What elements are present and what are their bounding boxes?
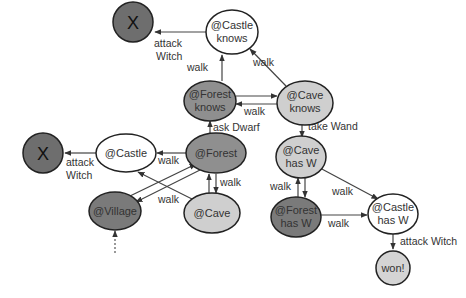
edge-label: walk — [219, 176, 242, 188]
svg-text:@Castle: @Castle — [372, 201, 414, 213]
svg-text:@Castle: @Castle — [211, 19, 253, 31]
svg-text:@Forest: @Forest — [195, 147, 237, 159]
edge-label: walk — [243, 105, 266, 117]
node-castle: @Castle — [96, 134, 156, 172]
svg-text:@Cave: @Cave — [194, 207, 231, 219]
node-forest: @Forest — [186, 133, 246, 173]
svg-text:@Forest: @Forest — [189, 88, 231, 100]
svg-text:X: X — [37, 144, 49, 164]
node-castle-knows: @Castle knows — [206, 10, 258, 54]
svg-text:won!: won! — [380, 262, 404, 274]
node-won: won! — [376, 251, 410, 285]
node-village: @Village — [89, 192, 141, 230]
edge-label: walk — [252, 56, 275, 68]
edge-label: attack — [66, 156, 95, 168]
svg-text:@Forest: @Forest — [275, 204, 317, 216]
svg-text:has W: has W — [285, 157, 317, 169]
edge-label: attack Witch — [400, 235, 457, 247]
state-diagram: attack Witch walk walk walk ask Dwarf ta… — [0, 0, 466, 298]
edge-label: Witch — [66, 169, 92, 181]
svg-text:has W: has W — [280, 217, 312, 229]
node-x-left: X — [23, 133, 63, 173]
edge-label: walk — [186, 61, 209, 73]
svg-text:knows: knows — [216, 32, 248, 44]
svg-text:@Village: @Village — [93, 205, 137, 217]
svg-text:@Cave: @Cave — [287, 89, 324, 101]
edge-label: ask Dwarf — [213, 121, 260, 133]
svg-text:@Castle: @Castle — [105, 147, 147, 159]
node-castle-has-w: @Castle has W — [368, 194, 418, 234]
node-cave: @Cave — [184, 193, 240, 233]
node-forest-knows: @Forest knows — [184, 81, 236, 121]
nodes: X @Castle knows @Forest knows @Cave know… — [23, 2, 418, 285]
svg-text:@Cave: @Cave — [283, 144, 320, 156]
svg-text:knows: knows — [194, 101, 226, 113]
edge-label: Witch — [156, 50, 182, 62]
edge-label: walk — [157, 154, 180, 166]
edge-label: walk — [157, 193, 180, 205]
edge-label: walk — [327, 217, 350, 229]
node-cave-has-w: @Cave has W — [276, 136, 326, 178]
svg-text:knows: knows — [289, 102, 321, 114]
edge-label: attack — [154, 37, 183, 49]
edge-label: walk — [331, 185, 354, 197]
node-forest-has-w: @Forest has W — [271, 197, 321, 237]
node-cave-knows: @Cave knows — [277, 81, 333, 125]
svg-text:has W: has W — [377, 214, 409, 226]
svg-text:X: X — [127, 13, 139, 33]
node-x-top: X — [113, 2, 153, 42]
edge-label: walk — [269, 180, 292, 192]
